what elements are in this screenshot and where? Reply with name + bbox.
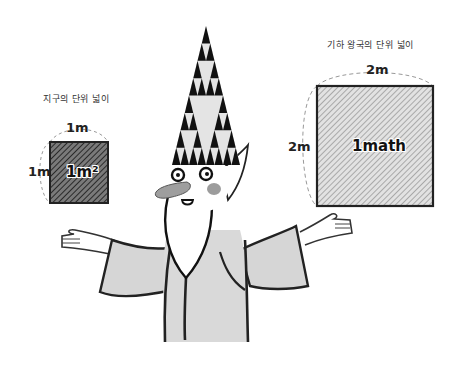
left-side-dimension: 1m <box>28 164 51 179</box>
left-top-dimension: 1m <box>66 120 89 135</box>
right-top-dimension: 2m <box>366 62 389 77</box>
right-square-label: 1math <box>352 137 406 155</box>
left-caption: 지구의 단위 넓이 <box>43 92 109 105</box>
right-caption: 기하 왕국의 단위 넓이 <box>327 38 414 51</box>
wizard-illustration <box>0 0 463 369</box>
right-side-dimension: 2m <box>288 139 311 154</box>
illustration-canvas: 지구의 단위 넓이 1m 1m 1m² 기하 왕국의 단위 넓이 2m 2m 1… <box>0 0 463 369</box>
sierpinski-hat <box>172 26 240 165</box>
left-square-label: 1m² <box>66 163 99 181</box>
